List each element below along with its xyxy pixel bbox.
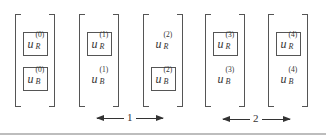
cell-u-b-2: u(2)B [151,67,176,91]
vector-column-3: u(3)R u(3)B [205,14,245,107]
arrowhead-left-icon [96,115,104,121]
arrowhead-left-icon [222,116,230,122]
left-bracket [143,14,149,107]
bottom-separator-line [0,133,326,135]
left-bracket [205,14,211,107]
cell-u-b-0: u(0)B [23,67,48,91]
arrowhead-right-icon [283,116,291,122]
arrow-label-2: 2 [250,113,262,124]
cell-u-r-2: u(2)R [151,32,176,56]
left-bracket [268,14,274,107]
cell-u-r-0: u(0)R [23,32,48,56]
cell-u-b-4: u(4)B [276,67,301,91]
cell-u-r-4: u(4)R [276,32,301,56]
right-bracket [177,14,183,107]
left-bracket [15,14,21,107]
right-bracket [49,14,55,107]
vector-column-1: u(1)R u(1)B [79,14,119,107]
right-bracket [239,14,245,107]
right-bracket [113,14,119,107]
vector-column-4: u(4)R u(4)B [268,14,308,107]
cell-u-b-1: u(1)B [87,67,112,91]
cell-u-r-3: u(3)R [213,32,238,56]
left-bracket [79,14,85,107]
right-bracket [302,14,308,107]
cell-u-b-3: u(3)B [213,67,238,91]
vector-column-0: u(0)R u(0)B [15,14,55,107]
arrowhead-right-icon [156,115,164,121]
vector-column-2: u(2)R u(2)B [143,14,183,107]
arrow-label-1: 1 [124,112,136,123]
cell-u-r-1: u(1)R [87,32,112,56]
